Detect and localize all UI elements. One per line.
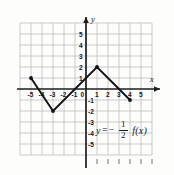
svg-text:-1: -1 [88, 97, 94, 104]
curve-point-maximum [95, 65, 99, 69]
svg-text:0: 0 [81, 91, 85, 98]
equation-caption: y = − 1 2 f(x) [96, 120, 147, 140]
svg-text:-4: -4 [88, 130, 94, 137]
svg-text:4: 4 [79, 42, 83, 49]
equation-equals-sign: = [102, 125, 108, 135]
curve-point-right-endpoint [128, 98, 132, 102]
svg-text:3: 3 [117, 91, 121, 98]
svg-text:-5: -5 [28, 91, 34, 98]
figure-container: y x -5 -4 -3 -2 -1 0 1 2 3 4 5 5 4 3 2 1… [0, 0, 174, 175]
equation-function: f(x) [132, 125, 147, 136]
lower-axis-ticks [97, 159, 152, 164]
fraction-numerator: 1 [120, 120, 127, 130]
svg-text:-3: -3 [88, 119, 94, 126]
svg-text:2: 2 [106, 91, 110, 98]
curve-point-minimum [51, 109, 55, 113]
fraction-denominator: 2 [120, 131, 127, 141]
equation-minus-sign: − [109, 125, 115, 135]
svg-text:4: 4 [128, 91, 132, 98]
coordinate-plot: y x -5 -4 -3 -2 -1 0 1 2 3 4 5 5 4 3 2 1… [0, 0, 174, 175]
y-axis-label: y [90, 14, 95, 24]
svg-text:5: 5 [139, 91, 143, 98]
svg-text:1: 1 [95, 91, 99, 98]
svg-text:-3: -3 [50, 91, 56, 98]
x-axis-label: x [149, 74, 154, 84]
svg-text:2: 2 [79, 64, 83, 71]
equation-lhs: y [96, 125, 101, 136]
y-axis-arrow [83, 17, 89, 23]
svg-text:3: 3 [79, 53, 83, 60]
curve-point-left-endpoint [29, 76, 33, 80]
svg-text:-5: -5 [88, 141, 94, 148]
svg-text:-2: -2 [88, 108, 94, 115]
equation-fraction: 1 2 [119, 120, 128, 140]
svg-text:5: 5 [79, 31, 83, 38]
x-axis-arrow [154, 86, 160, 92]
